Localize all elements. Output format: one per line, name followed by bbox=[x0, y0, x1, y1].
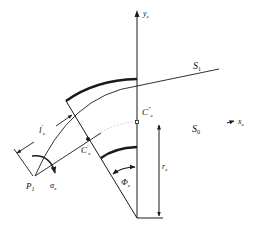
point-p1-label: P1 bbox=[25, 181, 35, 192]
y-axis bbox=[135, 10, 140, 218]
phi-angle-arc bbox=[113, 167, 135, 174]
x-axis-label: xe bbox=[237, 117, 245, 127]
center-lower-dot bbox=[86, 137, 90, 141]
p1-to-ce-line bbox=[35, 133, 101, 176]
y-axis-label: ye bbox=[142, 9, 150, 19]
outer-thick-arc bbox=[66, 79, 137, 101]
phi-label: Φe bbox=[121, 177, 131, 188]
length-dimension bbox=[14, 115, 72, 176]
x-axis-indicator bbox=[227, 121, 234, 123]
length-label: l′e bbox=[39, 124, 46, 136]
center-upper-marker bbox=[136, 121, 139, 124]
center-upper-label: C″e bbox=[142, 106, 154, 118]
surface-s0-label: S0 bbox=[192, 123, 200, 135]
inner-thick-arc bbox=[101, 147, 137, 158]
radial-line bbox=[66, 101, 137, 218]
surface-s1-label: S1 bbox=[193, 60, 201, 72]
diagram-canvas: ye xe l′e αe P1 C′e C″e Φe re S1 S0 bbox=[0, 0, 257, 229]
alpha-label: αe bbox=[50, 181, 57, 191]
center-lower-label: C′e bbox=[81, 144, 91, 156]
y-axis-arrow-icon bbox=[135, 10, 140, 17]
faint-arc bbox=[95, 122, 134, 136]
